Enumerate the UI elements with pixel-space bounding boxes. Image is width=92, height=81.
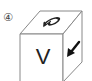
front-face-letter: V [32, 46, 54, 68]
